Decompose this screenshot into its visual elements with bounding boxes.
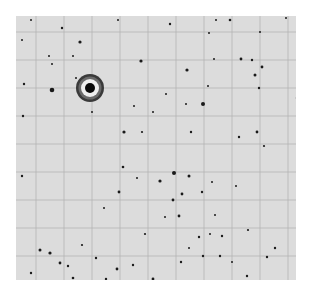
star — [39, 249, 42, 252]
star — [169, 23, 171, 25]
star — [180, 261, 182, 263]
star — [209, 233, 211, 235]
star — [221, 235, 223, 237]
star — [274, 247, 276, 249]
star-plate — [16, 16, 296, 280]
star — [122, 130, 125, 133]
star — [152, 278, 155, 280]
star — [172, 171, 176, 175]
star-field — [16, 16, 296, 280]
star — [116, 268, 119, 271]
star — [78, 40, 81, 43]
star — [22, 115, 24, 117]
star — [185, 103, 187, 105]
star — [285, 17, 287, 19]
bright-star-core — [85, 83, 95, 93]
star — [254, 74, 257, 77]
star — [122, 166, 125, 169]
star — [139, 59, 142, 62]
star — [266, 256, 268, 258]
star — [21, 39, 23, 41]
star — [202, 255, 204, 257]
star — [30, 272, 32, 274]
star — [158, 179, 161, 182]
star — [185, 68, 188, 71]
star — [81, 244, 83, 246]
star — [211, 181, 213, 183]
star — [213, 58, 215, 60]
star — [136, 177, 138, 179]
star — [207, 85, 209, 87]
star — [48, 251, 51, 254]
star — [141, 131, 143, 133]
star — [201, 102, 205, 106]
star — [75, 77, 77, 79]
star — [164, 216, 166, 218]
star — [231, 261, 233, 263]
star — [50, 88, 55, 93]
star — [118, 191, 121, 194]
star — [240, 58, 243, 61]
star — [132, 264, 134, 266]
star — [133, 105, 135, 107]
star — [247, 229, 249, 231]
star — [188, 247, 190, 249]
star — [215, 19, 217, 21]
star — [219, 255, 221, 257]
star — [105, 278, 107, 280]
star — [117, 19, 119, 21]
star — [190, 131, 192, 133]
star — [246, 275, 248, 277]
star — [201, 191, 203, 193]
star — [188, 175, 191, 178]
star — [103, 207, 105, 209]
star — [172, 199, 175, 202]
star — [251, 59, 253, 61]
star — [67, 265, 69, 267]
star — [198, 236, 200, 238]
star — [72, 55, 74, 57]
star — [144, 233, 146, 235]
star — [91, 111, 93, 113]
star — [259, 31, 261, 33]
star — [235, 185, 237, 187]
star — [208, 32, 210, 34]
star — [72, 277, 75, 280]
star — [152, 111, 154, 113]
star — [165, 93, 167, 95]
star — [256, 131, 259, 134]
star — [178, 215, 181, 218]
star — [95, 257, 97, 259]
star — [51, 63, 53, 65]
star — [229, 19, 232, 22]
star — [238, 136, 240, 138]
star — [59, 262, 62, 265]
star — [263, 145, 265, 147]
star — [261, 66, 264, 69]
star — [61, 27, 63, 29]
star — [181, 193, 184, 196]
star — [23, 83, 25, 85]
star — [21, 175, 23, 177]
star — [214, 214, 216, 216]
star — [258, 87, 260, 89]
star — [48, 55, 50, 57]
star — [30, 19, 32, 21]
